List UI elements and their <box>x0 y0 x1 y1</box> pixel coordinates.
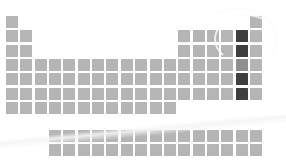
element-cell-fblock-r2-c6 <box>121 144 133 156</box>
element-cell-main-r4-c4 <box>49 59 61 71</box>
element-cell-fblock-r2-c9 <box>164 144 176 156</box>
element-cell-main-r7-c10 <box>135 102 147 114</box>
element-cell-main-r5-c8 <box>106 73 118 85</box>
element-cell-fblock-r1-c15 <box>250 130 262 142</box>
element-cell-main-r7-c2 <box>20 102 32 114</box>
element-cell-main-r1-c1 <box>6 16 18 28</box>
element-cell-main-r4-c3 <box>35 59 47 71</box>
element-cell-main-r6-c13 <box>178 88 190 100</box>
element-cell-main-r5-c16 <box>221 73 233 85</box>
element-cell-main-r7-c1 <box>6 102 18 114</box>
element-cell-fblock-r2-c7 <box>135 144 147 156</box>
element-cell-fblock-r2-c8 <box>150 144 162 156</box>
element-cell-main-r6-c9 <box>121 88 133 100</box>
element-cell-main-r7-c8 <box>106 102 118 114</box>
element-cell-main-r6-c3 <box>35 88 47 100</box>
element-cell-fblock-r1-c4 <box>92 130 104 142</box>
element-cell-main-r3-c2 <box>20 45 32 57</box>
element-cell-main-r2-c18 <box>250 30 262 42</box>
element-cell-fblock-r2-c5 <box>106 144 118 156</box>
element-cell-main-r5-c7 <box>92 73 104 85</box>
element-cell-main-r4-c16 <box>221 59 233 71</box>
element-cell-main-r2-c2 <box>20 30 32 42</box>
periodic-table-figure <box>0 0 286 168</box>
element-cell-fblock-r2-c2 <box>63 144 75 156</box>
element-cell-main-r4-c17 <box>236 59 248 71</box>
element-cell-main-r6-c15 <box>207 88 219 100</box>
element-cell-fblock-r1-c3 <box>78 130 90 142</box>
element-cell-main-r3-c1 <box>6 45 18 57</box>
element-cell-main-r4-c9 <box>121 59 133 71</box>
element-cell-main-r6-c16 <box>221 88 233 100</box>
element-cell-main-r5-c14 <box>193 73 205 85</box>
element-cell-main-r7-c4 <box>49 102 61 114</box>
element-cell-main-r4-c14 <box>193 59 205 71</box>
element-cell-fblock-r2-c12 <box>207 144 219 156</box>
element-cell-main-r5-c1 <box>6 73 18 85</box>
element-cell-main-r7-c9 <box>121 102 133 114</box>
element-cell-fblock-r1-c13 <box>221 130 233 142</box>
element-cell-main-r3-c16 <box>221 45 233 57</box>
element-cell-fblock-r1-c7 <box>135 130 147 142</box>
element-cell-main-r6-c6 <box>78 88 90 100</box>
element-cell-main-r5-c11 <box>150 73 162 85</box>
element-cell-main-r5-c13 <box>178 73 190 85</box>
element-cell-main-r3-c15 <box>207 45 219 57</box>
element-cell-main-r3-c14 <box>193 45 205 57</box>
element-cell-main-r6-c1 <box>6 88 18 100</box>
element-cell-main-r4-c1 <box>6 59 18 71</box>
element-cell-main-r5-c10 <box>135 73 147 85</box>
element-cell-main-r2-c1 <box>6 30 18 42</box>
element-cell-main-r4-c15 <box>207 59 219 71</box>
element-cell-main-r5-c3 <box>35 73 47 85</box>
element-cell-fblock-r1-c6 <box>121 130 133 142</box>
element-cell-main-r2-c13 <box>178 30 190 42</box>
element-cell-main-r7-c5 <box>63 102 75 114</box>
element-cell-main-r2-c17 <box>236 30 248 42</box>
element-cell-fblock-r1-c8 <box>150 130 162 142</box>
element-cell-main-r6-c2 <box>20 88 32 100</box>
element-cell-main-r4-c18 <box>250 59 262 71</box>
element-cell-main-r7-c3 <box>35 102 47 114</box>
element-cell-main-r5-c5 <box>63 73 75 85</box>
element-cell-fblock-r2-c14 <box>236 144 248 156</box>
element-cell-main-r6-c14 <box>193 88 205 100</box>
element-cell-main-r6-c8 <box>106 88 118 100</box>
element-cell-fblock-r1-c2 <box>63 130 75 142</box>
element-cell-fblock-r2-c15 <box>250 144 262 156</box>
element-cell-main-r4-c11 <box>150 59 162 71</box>
element-cell-main-r2-c15 <box>207 30 219 42</box>
element-cell-main-r7-c11 <box>150 102 162 114</box>
element-cell-main-r3-c13 <box>178 45 190 57</box>
element-cell-fblock-r2-c4 <box>92 144 104 156</box>
element-cell-main-r6-c11 <box>150 88 162 100</box>
element-cell-main-r4-c6 <box>78 59 90 71</box>
element-cell-fblock-r2-c10 <box>178 144 190 156</box>
element-cell-main-r4-c2 <box>20 59 32 71</box>
element-cell-fblock-r2-c1 <box>49 144 61 156</box>
element-cell-main-r5-c15 <box>207 73 219 85</box>
element-cell-main-r5-c9 <box>121 73 133 85</box>
element-cell-main-r4-c8 <box>106 59 118 71</box>
element-cell-main-r6-c10 <box>135 88 147 100</box>
element-cell-main-r5-c6 <box>78 73 90 85</box>
element-cell-main-r7-c6 <box>78 102 90 114</box>
element-cell-main-r6-c7 <box>92 88 104 100</box>
element-cell-main-r2-c14 <box>193 30 205 42</box>
element-cell-main-r4-c7 <box>92 59 104 71</box>
element-cell-fblock-r2-c11 <box>193 144 205 156</box>
element-cell-main-r4-c5 <box>63 59 75 71</box>
element-cell-main-r6-c4 <box>49 88 61 100</box>
element-cell-main-r4-c10 <box>135 59 147 71</box>
periodic-table-grid <box>0 0 286 168</box>
element-cell-main-r4-c13 <box>178 59 190 71</box>
element-cell-fblock-r2-c13 <box>221 144 233 156</box>
element-cell-main-r6-c18 <box>250 88 262 100</box>
element-cell-main-r7-c7 <box>92 102 104 114</box>
element-cell-main-r6-c12 <box>164 88 176 100</box>
element-cell-fblock-r1-c9 <box>164 130 176 142</box>
element-cell-fblock-r1-c1 <box>49 130 61 142</box>
element-cell-main-r1-c18 <box>250 16 262 28</box>
element-cell-fblock-r1-c10 <box>178 130 190 142</box>
element-cell-main-r7-c12 <box>164 102 176 114</box>
